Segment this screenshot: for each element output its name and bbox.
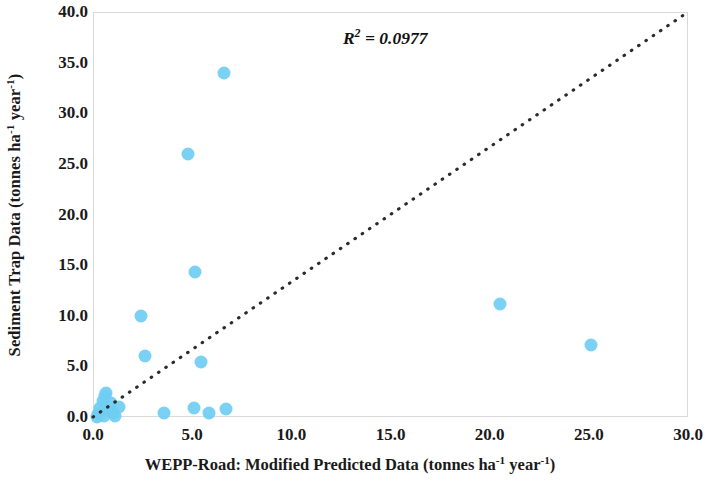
x-axis-label-sup2: -1 (541, 454, 550, 466)
y-axis-tick: 0.0 (28, 407, 88, 427)
x-axis-tick: 20.0 (450, 425, 530, 445)
data-point (188, 401, 201, 414)
data-point (182, 147, 195, 160)
x-axis-tick-labels: 0.05.010.015.020.025.030.0 (0, 425, 700, 451)
y-axis-tick: 5.0 (28, 356, 88, 376)
data-point (493, 297, 506, 310)
x-axis-label-mid: year (505, 455, 540, 474)
data-point (203, 407, 216, 420)
x-axis-tick: 30.0 (648, 425, 707, 445)
data-point (90, 410, 103, 423)
data-point (189, 266, 202, 279)
y-axis-tick: 15.0 (28, 255, 88, 275)
y-axis-tick: 35.0 (28, 53, 88, 73)
x-axis-label-sup1: -1 (496, 454, 505, 466)
y-axis-tick: 40.0 (28, 2, 88, 22)
data-point (195, 356, 208, 369)
r-squared-text: R2 = 0.0977 (343, 28, 428, 48)
x-axis-tick: 15.0 (351, 425, 431, 445)
x-axis-label-main: WEPP-Road: Modified Predicted Data (tonn… (145, 455, 496, 474)
y-axis-label-sup2: -1 (4, 79, 16, 89)
data-point (217, 66, 230, 79)
x-axis-tick: 0.0 (53, 425, 133, 445)
y-axis-tick: 25.0 (28, 154, 88, 174)
y-axis-tick: 20.0 (28, 205, 88, 225)
y-axis-tick-labels: 0.05.010.015.020.025.030.035.040.0 (22, 0, 88, 430)
x-axis-tick: 10.0 (251, 425, 331, 445)
x-axis-tick: 25.0 (549, 425, 629, 445)
data-point (138, 350, 151, 363)
data-point (584, 339, 597, 352)
x-axis-tick: 5.0 (152, 425, 232, 445)
x-axis-label-end: ) (550, 455, 556, 474)
data-point (219, 402, 232, 415)
y-axis-tick: 30.0 (28, 103, 88, 123)
y-axis-tick: 10.0 (28, 306, 88, 326)
data-point (108, 410, 121, 423)
data-point (134, 309, 147, 322)
plot-area (93, 12, 688, 417)
x-axis-label: WEPP-Road: Modified Predicted Data (tonn… (0, 455, 700, 475)
y-axis-label-sup1: -1 (4, 125, 16, 135)
data-point (158, 406, 171, 419)
r-squared-annotation: R2 = 0.0977 (343, 28, 428, 49)
